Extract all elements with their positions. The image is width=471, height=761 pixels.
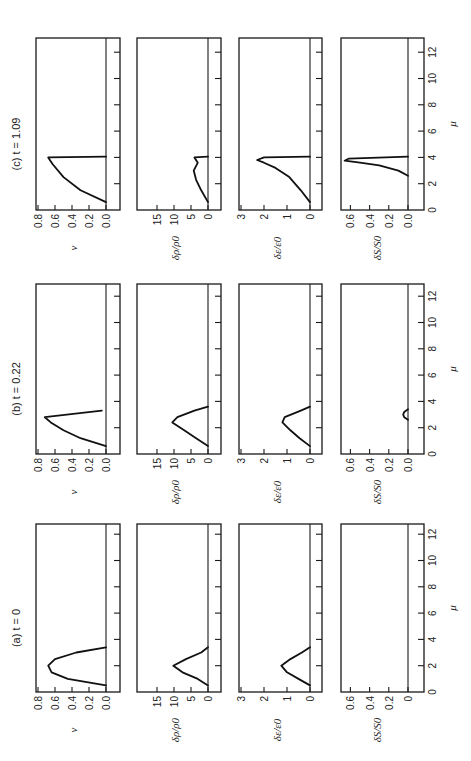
mu-tick-label: 4 (427, 154, 438, 160)
value-tick-label: 15 (152, 458, 163, 470)
panel-group-a: (a) t = 00.00.20.40.60.8v051015δρ/ρ00123… (10, 524, 458, 742)
mu-tick-label: 10 (427, 317, 438, 329)
value-tick-label: 0 (403, 696, 414, 702)
subplot-eps: 0123δε/ε0 (236, 38, 322, 259)
value-tick-label: 0.8 (33, 458, 44, 472)
data-curve (173, 647, 208, 685)
subplot-S: 00.20.40.6δS/S0024681012μ (341, 524, 458, 742)
value-tick-label: 0.0 (101, 458, 112, 472)
mu-tick-label: 0 (427, 207, 438, 213)
data-curve (48, 157, 106, 202)
panel-title: (c) t = 1.09 (10, 118, 22, 171)
value-tick-label: 0.0 (403, 458, 414, 472)
data-curve (194, 157, 208, 202)
value-tick-label: 0.2 (384, 214, 395, 228)
mu-axis-label: μ (446, 366, 458, 373)
subplot-v: 0.00.20.40.60.8v (33, 524, 120, 732)
value-tick-label: 0.6 (50, 214, 61, 228)
mu-axis-label: μ (446, 121, 458, 128)
mu-tick-label: 10 (427, 555, 438, 567)
value-tick-label: 0.6 (50, 458, 61, 472)
value-tick-label: 15 (152, 696, 163, 708)
axis-label-rho: δρ/ρ0 (169, 717, 181, 742)
mu-tick-label: 2 (427, 180, 438, 186)
mu-tick-label: 8 (427, 584, 438, 590)
subplot-eps: 0123δε/ε0 (236, 524, 322, 741)
value-tick-label: 0.0 (101, 214, 112, 228)
value-tick-label: 5 (186, 458, 197, 464)
axis-label-rho: δρ/ρ0 (169, 479, 181, 504)
mu-tick-label: 4 (427, 636, 438, 642)
value-tick-label: 0.8 (33, 696, 44, 710)
subplot-rho: 051015δρ/ρ0 (137, 38, 221, 260)
mu-tick-label: 2 (427, 424, 438, 430)
value-tick-label: 2 (259, 696, 270, 702)
plot-frame (341, 524, 424, 692)
axis-label-S: δS/S0 (371, 479, 383, 504)
value-tick-label: 1 (282, 696, 293, 702)
value-tick-label: 0.2 (84, 458, 95, 472)
value-tick-label: 5 (186, 214, 197, 220)
mu-tick-label: 12 (427, 290, 438, 302)
mu-tick-label: 0 (427, 451, 438, 457)
data-curve (403, 409, 408, 420)
mu-tick-label: 0 (427, 689, 438, 695)
axis-label-v: v (67, 245, 79, 250)
value-tick-label: 0 (305, 458, 316, 464)
data-curve (172, 407, 208, 446)
subplot-eps: 0123δε/ε0 (236, 284, 322, 503)
axis-label-S: δS/S0 (371, 235, 383, 260)
panel-title: (b) t = 0.22 (10, 362, 22, 416)
data-curve (345, 157, 408, 176)
value-tick-label: 0 (305, 214, 316, 220)
mu-tick-label: 6 (427, 128, 438, 134)
axis-label-rho: δρ/ρ0 (169, 235, 181, 260)
value-tick-label: 0.2 (84, 696, 95, 710)
value-tick-label: 0.2 (384, 458, 395, 472)
value-tick-label: 10 (169, 696, 180, 708)
data-curve (257, 157, 310, 202)
panel-group-b: (b) t = 0.220.00.20.40.60.8v051015δρ/ρ00… (10, 284, 458, 504)
panel-group-c: (c) t = 1.090.00.20.40.60.8v051015δρ/ρ00… (10, 38, 458, 260)
value-tick-label: 10 (169, 458, 180, 470)
axis-label-eps: δε/ε0 (271, 480, 283, 503)
value-tick-label: 0.2 (384, 696, 395, 710)
value-tick-label: 0.6 (345, 214, 356, 228)
value-tick-label: 0 (203, 696, 214, 702)
value-tick-label: 0.4 (67, 458, 78, 472)
value-tick-label: 3 (236, 458, 247, 464)
mu-tick-label: 4 (427, 398, 438, 404)
value-tick-label: 0.4 (67, 214, 78, 228)
plot-frame (341, 38, 424, 210)
panel-title: (a) t = 0 (10, 609, 22, 647)
subplot-S: 0.00.20.40.6δS/S0024681012μ (341, 38, 458, 260)
axis-label-v: v (67, 727, 79, 732)
rotated-figure: (a) t = 00.00.20.40.60.8v051015δρ/ρ00123… (0, 0, 471, 761)
subplot-rho: 051015δρ/ρ0 (137, 524, 221, 742)
value-tick-label: 3 (236, 696, 247, 702)
value-tick-label: 15 (152, 214, 163, 226)
axis-label-eps: δε/ε0 (271, 718, 283, 741)
mu-tick-label: 12 (427, 528, 438, 540)
mu-tick-label: 10 (427, 73, 438, 85)
subplot-v: 0.00.20.40.60.8v (33, 38, 120, 250)
value-tick-label: 0 (203, 214, 214, 220)
value-tick-label: 5 (186, 696, 197, 702)
mu-tick-label: 8 (427, 346, 438, 352)
value-tick-label: 0.8 (33, 214, 44, 228)
value-tick-label: 0.2 (84, 214, 95, 228)
value-tick-label: 0.4 (365, 214, 376, 228)
value-tick-label: 2 (259, 458, 270, 464)
value-tick-label: 0.0 (403, 214, 414, 228)
value-tick-label: 1 (282, 458, 293, 464)
value-tick-label: 0.6 (50, 696, 61, 710)
value-tick-label: 0.6 (345, 458, 356, 472)
plot-frame (36, 38, 120, 210)
axis-label-v: v (67, 489, 79, 494)
subplot-S: 0.00.20.40.6δS/S0024681012μ (341, 284, 458, 504)
data-curve (48, 647, 106, 685)
subplot-rho: 051015δρ/ρ0 (137, 284, 221, 504)
data-curve (281, 647, 310, 685)
value-tick-label: 3 (236, 214, 247, 220)
value-tick-label: 0.4 (67, 696, 78, 710)
